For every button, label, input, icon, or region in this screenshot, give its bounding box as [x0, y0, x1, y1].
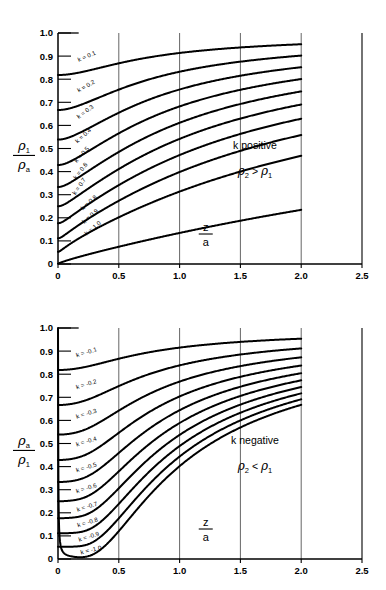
chart-svg-bottom: 00.10.20.30.40.50.60.70.80.91.000.51.01.…: [0, 295, 386, 590]
y-tick-label-0.6: 0.6: [40, 120, 53, 131]
y-tick-label-0.4: 0.4: [40, 166, 54, 177]
x-tick-label-1.5: 1.5: [234, 270, 248, 281]
annotations-bottom: k negativeρ2 < ρ1: [231, 434, 279, 476]
chart-svg-top: 00.10.20.30.40.50.60.70.80.91.000.51.01.…: [0, 0, 386, 295]
x-tick-label-2.5: 2.5: [355, 270, 369, 281]
y-tick-label-0.5: 0.5: [40, 143, 54, 154]
x-tick-label-1.5: 1.5: [234, 565, 248, 576]
x-tick-label-1.0: 1.0: [173, 270, 186, 281]
annotation-rho-inequality: ρ2 < ρ1: [237, 459, 272, 475]
ticks-top: [58, 33, 362, 268]
x-tick-label-0.5: 0.5: [112, 565, 126, 576]
y-tick-label-0.3: 0.3: [40, 189, 53, 200]
y-tick-label-0: 0: [48, 258, 53, 269]
curve-label-k-0.2: k = -0.2: [75, 377, 98, 390]
x-tick-label-0: 0: [55, 270, 60, 281]
y-tick-label-0.7: 0.7: [40, 97, 53, 108]
curve-labels-top: k = 0.1k = 0.2k = 0.3k = 0.4k = 0.5k = 0…: [71, 49, 103, 237]
curve-label-k0.1: k = 0.1: [76, 49, 97, 63]
annotation-rho-inequality: ρ2 > ρ1: [237, 164, 272, 180]
x-tick-label-0: 0: [55, 565, 60, 576]
x-axis-title-numerator: z: [203, 221, 209, 233]
y-tick-label-0.8: 0.8: [40, 74, 53, 85]
curve-label-k0.2: k = 0.2: [76, 78, 97, 94]
chart-panel-k-negative: 00.10.20.30.40.50.60.70.80.91.000.51.01.…: [0, 295, 386, 590]
y-tick-label-0.4: 0.4: [40, 461, 54, 472]
x-tick-label-2.0: 2.0: [295, 270, 308, 281]
x-axis-title-numerator: z: [203, 516, 209, 528]
x-axis-title-denominator: a: [203, 236, 210, 248]
y-axis-title-numerator: ρ1: [17, 138, 30, 155]
annotations-top: k positiveρ2 > ρ1: [233, 139, 277, 181]
y-tick-label-0.5: 0.5: [40, 438, 54, 449]
y-tick-label-0.1: 0.1: [40, 235, 54, 246]
y-tick-label-0.1: 0.1: [40, 530, 54, 541]
y-axis-title-denominator: ρ1: [17, 452, 30, 469]
y-tick-label-0.8: 0.8: [40, 369, 53, 380]
y-axis-title-denominator: ρa: [17, 157, 31, 174]
y-tick-label-0.9: 0.9: [40, 51, 53, 62]
y-tick-label-1.0: 1.0: [40, 322, 53, 333]
y-tick-label-0.2: 0.2: [40, 507, 53, 518]
curve-label-k-0.1: k = -0.1: [75, 345, 98, 358]
annotation-k-sign: k negative: [231, 434, 279, 446]
x-tick-label-0.5: 0.5: [112, 270, 126, 281]
curve-label-k-0.3: k = -0.3: [75, 407, 98, 420]
x-axis-title-denominator: a: [203, 531, 210, 543]
x-tick-label-2.5: 2.5: [355, 565, 369, 576]
y-tick-label-0.7: 0.7: [40, 392, 53, 403]
curve-label-k0.5: k = 0.5: [72, 144, 90, 163]
master-curve-figure: 00.10.20.30.40.50.60.70.80.91.000.51.01.…: [0, 0, 386, 590]
x-tick-label-2.0: 2.0: [295, 565, 308, 576]
y-tick-label-0.2: 0.2: [40, 212, 53, 223]
curve-label-k0.7: k = 0.7: [71, 176, 88, 196]
y-axis-title-numerator: ρa: [17, 433, 31, 450]
y-tick-label-0.6: 0.6: [40, 415, 53, 426]
x-tick-label-1.0: 1.0: [173, 565, 186, 576]
chart-panel-k-positive: 00.10.20.30.40.50.60.70.80.91.000.51.01.…: [0, 0, 386, 295]
annotation-k-sign: k positive: [233, 139, 277, 151]
y-tick-label-0.9: 0.9: [40, 346, 53, 357]
curve-label-k-0.4: k = -0.4: [75, 434, 98, 447]
y-tick-label-0: 0: [48, 553, 53, 564]
y-tick-label-0.3: 0.3: [40, 484, 53, 495]
y-tick-label-1.0: 1.0: [40, 27, 53, 38]
